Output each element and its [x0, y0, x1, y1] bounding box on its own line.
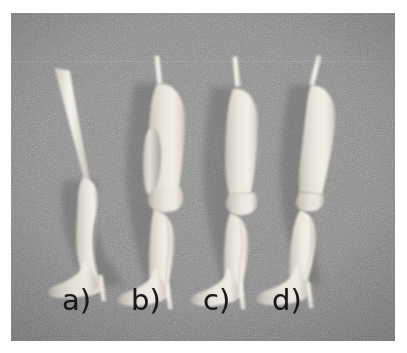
caption-c: c) [203, 286, 230, 315]
specimen-b-knee [148, 187, 183, 212]
caption-b: b) [131, 286, 161, 315]
specimen-c-knee [226, 193, 257, 215]
specimen-b-top-rod [154, 56, 163, 85]
specimen-c-thigh [225, 89, 258, 194]
cast-shadows [62, 83, 321, 287]
specimen-d-top-rod [309, 55, 322, 86]
specimen-d-knee [296, 192, 324, 212]
caption-d: d) [272, 286, 302, 315]
caption-a: a) [62, 286, 91, 315]
specimen-a-top-rod [55, 68, 90, 181]
figure-root: a) b) c) d) [0, 0, 407, 353]
specimen-c-top-rod [232, 56, 241, 87]
